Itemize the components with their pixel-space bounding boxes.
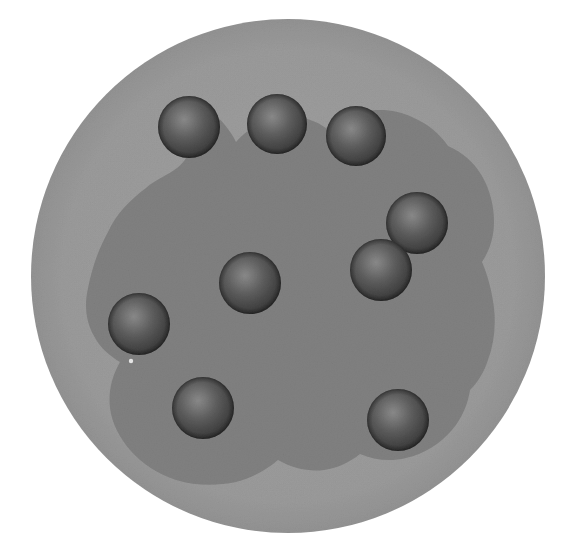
highlight-speck [129, 359, 133, 363]
sphere-center [219, 252, 281, 314]
figure-container: Circular cross-section with embedded sph… [0, 0, 572, 552]
sphere-bottom-right [367, 389, 429, 451]
sphere-top-left [158, 96, 220, 158]
sphere-bottom-left [172, 377, 234, 439]
sphere-top-right [326, 106, 386, 166]
cross-section-figure: Circular cross-section with embedded sph… [0, 0, 572, 552]
sphere-top-center [247, 94, 307, 154]
sphere-right-lower [350, 239, 412, 301]
sphere-left [108, 293, 170, 355]
